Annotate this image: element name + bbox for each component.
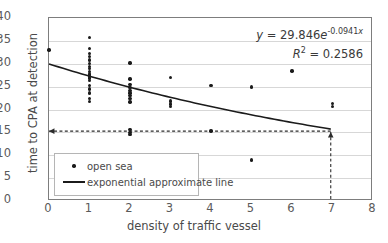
legend-label-open-sea: open sea [87, 161, 133, 172]
y-tick-40: 40 [0, 11, 11, 23]
x-axis-title: density of traffic vessel [0, 219, 388, 233]
x-tick-4: 4 [198, 203, 222, 215]
legend: open sea exponential approximate line [54, 153, 199, 196]
r-squared-label: R [293, 47, 301, 61]
x-tick-2: 2 [117, 203, 141, 215]
plot-area: y = 29.846e-0.0941x R2 = 0.2586 open sea… [48, 17, 372, 200]
data-point [47, 48, 50, 51]
chart-container: time to CPA at detection 051015202530354… [0, 0, 388, 243]
y-tick-25: 25 [0, 80, 11, 92]
x-tick-6: 6 [279, 203, 303, 215]
y-tick-5: 5 [0, 171, 11, 183]
x-tick-8: 8 [360, 203, 384, 215]
equation-line-1: y = 29.846e-0.0941x [256, 24, 363, 43]
x-tick-3: 3 [158, 203, 182, 215]
equation-coefficient: 29.846 [280, 28, 320, 42]
r-squared-superscript: 2 [301, 46, 306, 55]
legend-item-open-sea: open sea [61, 158, 193, 174]
data-point [88, 91, 91, 94]
y-tick-20: 20 [0, 103, 11, 115]
data-point [209, 129, 212, 132]
data-point [88, 79, 91, 82]
legend-item-exponential-line: exponential approximate line [61, 174, 193, 190]
y-tick-15: 15 [0, 125, 11, 137]
r-squared-equals: = [309, 47, 319, 61]
x-tick-5: 5 [239, 203, 263, 215]
guide-arrow-left [49, 128, 54, 134]
data-point [128, 77, 131, 80]
y-tick-10: 10 [0, 148, 11, 160]
y-tick-30: 30 [0, 57, 11, 69]
dot-marker-icon [61, 164, 87, 167]
data-point [128, 100, 131, 103]
x-tick-1: 1 [77, 203, 101, 215]
x-tick-7: 7 [320, 203, 344, 215]
data-point [128, 61, 131, 64]
equation-equals: = [267, 28, 277, 42]
y-axis-title: time to CPA at detection [26, 18, 40, 188]
equation-exponent: -0.0941 [327, 27, 358, 36]
data-point [250, 158, 253, 161]
equation-exponent-variable: x [358, 27, 363, 36]
y-tick-35: 35 [0, 34, 11, 46]
legend-label-exponential-line: exponential approximate line [87, 177, 233, 188]
equation-annotation: y = 29.846e-0.0941x R2 = 0.2586 [256, 24, 363, 62]
trendline [49, 64, 331, 129]
data-point [290, 69, 293, 72]
equation-lhs: y [256, 28, 263, 42]
r-squared-value: 0.2586 [323, 47, 363, 61]
data-point [88, 87, 91, 90]
y-tick-0: 0 [0, 194, 11, 206]
guide-arrow-up [328, 132, 334, 137]
line-marker-icon [61, 181, 87, 183]
equation-line-2: R2 = 0.2586 [256, 43, 363, 62]
x-tick-0: 0 [36, 203, 60, 215]
data-point [250, 85, 253, 88]
exponential-approximate-line [49, 64, 331, 129]
